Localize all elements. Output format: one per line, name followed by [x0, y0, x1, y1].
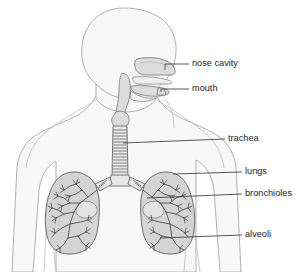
callout-mouth: mouth — [161, 83, 218, 93]
label-trachea: trachea — [228, 133, 260, 143]
label-nose-cavity: nose cavity — [192, 58, 238, 68]
left-lung-group — [45, 172, 99, 254]
label-bronchioles: bronchioles — [245, 188, 292, 198]
larynx — [112, 111, 129, 128]
diagram-canvas: nose cavitymouthtrachealungsbronchiolesa… — [0, 0, 301, 272]
respiratory-system-diagram: nose cavitymouthtrachealungsbronchiolesa… — [0, 0, 301, 272]
label-mouth: mouth — [192, 83, 218, 93]
callout-nose-cavity: nose cavity — [165, 58, 238, 70]
right-lung-group — [141, 172, 195, 254]
carina — [109, 175, 131, 186]
label-alveoli: alveoli — [245, 229, 271, 239]
trachea-cartilage-rings — [112, 130, 128, 172]
label-lungs: lungs — [245, 166, 267, 176]
